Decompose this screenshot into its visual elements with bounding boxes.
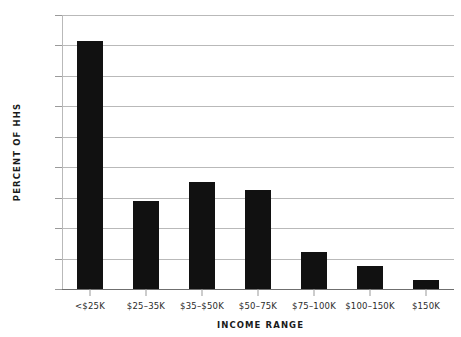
y-axis-tick-mark xyxy=(55,289,62,290)
bar-slot xyxy=(286,15,342,289)
bar-slot xyxy=(342,15,398,289)
bar[interactable] xyxy=(189,182,215,289)
y-axis-tick-mark xyxy=(55,76,62,77)
bar-chart: PERCENT OF HHS <$25K$25–35K$35–$50K$50–7… xyxy=(0,0,461,337)
x-axis-title: INCOME RANGE xyxy=(0,320,461,330)
bar-slot xyxy=(62,15,118,289)
bar-slot xyxy=(174,15,230,289)
bar[interactable] xyxy=(245,190,271,289)
bar[interactable] xyxy=(413,280,439,289)
x-axis-tick-mark xyxy=(314,289,315,296)
x-axis-tick-mark xyxy=(146,289,147,296)
x-axis-tick-mark xyxy=(202,289,203,296)
plot-area: <$25K$25–35K$35–$50K$50–75K$75–100K$100–… xyxy=(62,15,454,289)
x-axis-tick-mark xyxy=(370,289,371,296)
y-axis-tick-mark xyxy=(55,167,62,168)
y-axis-tick-mark xyxy=(55,15,62,16)
bar-slot xyxy=(230,15,286,289)
x-axis-tick-mark xyxy=(90,289,91,296)
x-axis-tick-label: $150K xyxy=(386,301,461,311)
y-axis-tick-mark xyxy=(55,45,62,46)
x-axis-tick-mark xyxy=(258,289,259,296)
bar[interactable] xyxy=(77,41,103,289)
x-axis-tick-mark xyxy=(426,289,427,296)
y-axis-title: PERCENT OF HHS xyxy=(12,72,22,232)
bar-slot xyxy=(398,15,454,289)
bar-series xyxy=(62,15,454,289)
y-axis-tick-mark xyxy=(55,228,62,229)
y-axis-tick-mark xyxy=(55,259,62,260)
y-axis-tick-mark xyxy=(55,106,62,107)
bar[interactable] xyxy=(133,201,159,289)
bar[interactable] xyxy=(357,266,383,289)
bar[interactable] xyxy=(301,252,327,289)
y-axis-tick-mark xyxy=(55,198,62,199)
bar-slot xyxy=(118,15,174,289)
y-axis-tick-mark xyxy=(55,137,62,138)
